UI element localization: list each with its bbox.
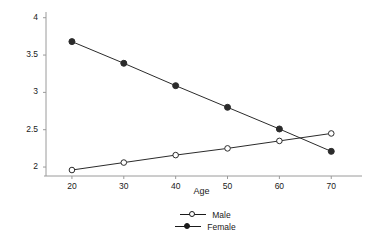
x-tick-label: 40 (164, 181, 188, 191)
y-tick-label: 2.5 (12, 124, 38, 134)
x-tick-label: 30 (112, 181, 136, 191)
x-axis-title-text: Age (193, 186, 209, 196)
x-tick-label: 20 (60, 181, 84, 191)
y-tick-label: 4 (12, 12, 38, 22)
chart-legend: Male Female (0, 208, 381, 232)
legend-label-female: Female (207, 221, 235, 233)
chart-figure: Number of doctor visits per year Age 22.… (0, 0, 381, 239)
legend-marker-filled-circle-icon (175, 221, 201, 233)
y-tick-label: 3 (12, 86, 38, 96)
legend-item-female: Female (0, 220, 381, 232)
x-tick-label: 70 (319, 181, 343, 191)
y-tick-label: 2 (12, 161, 38, 171)
plot-area (0, 0, 381, 239)
x-tick-label: 60 (267, 181, 291, 191)
y-tick-label: 3.5 (12, 49, 38, 59)
legend-marker-open-circle-icon (180, 209, 206, 221)
legend-label-male: Male (212, 209, 230, 221)
legend-item-male: Male (0, 208, 381, 220)
x-tick-label: 50 (216, 181, 240, 191)
